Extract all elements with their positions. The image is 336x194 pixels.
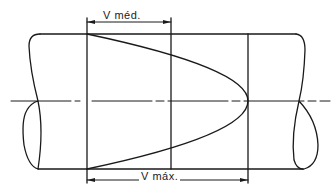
v-max-arrow-left: [87, 178, 95, 182]
pipe-right-end: [293, 34, 318, 169]
pipe-velocity-profile-diagram: [0, 0, 336, 194]
v-max-label: V máx.: [139, 170, 180, 182]
v-max-arrow-right: [240, 178, 248, 182]
v-mean-arrow-left: [87, 20, 95, 24]
v-mean-arrow-right: [163, 20, 171, 24]
v-mean-label: V méd.: [101, 9, 143, 21]
